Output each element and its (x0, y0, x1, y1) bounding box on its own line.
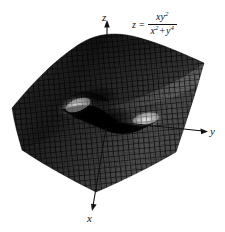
z-axis-label: z (102, 12, 106, 23)
numerator-exponent: 2 (165, 10, 168, 17)
x-axis-label: x (87, 213, 92, 224)
equation-annotation: z = xy2 x2+y4 (132, 12, 177, 36)
denominator-plus-sign: + (158, 25, 166, 36)
equation-lhs: z (132, 19, 136, 30)
surface-plot-canvas (0, 0, 225, 232)
y-axis-label: y (210, 126, 215, 137)
surface-plot-figure: z y x z = xy2 x2+y4 (0, 0, 225, 232)
denominator-second-exponent: 4 (171, 23, 174, 30)
numerator-base: xy (156, 11, 165, 22)
equation-equals-sign: = (138, 19, 146, 30)
equation-numerator: xy2 (153, 12, 171, 23)
equation-fraction: xy2 x2+y4 (148, 12, 177, 36)
equation-denominator: x2+y4 (148, 26, 177, 37)
